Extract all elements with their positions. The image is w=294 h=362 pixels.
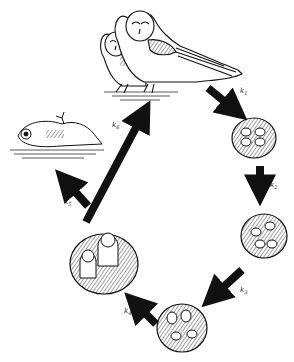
label-k1: k1 [240, 88, 247, 96]
arrow-k1 [208, 88, 230, 106]
dead-owl-illustration [10, 112, 104, 158]
label-k2: k2 [270, 182, 277, 190]
label-k4: k4 [124, 308, 131, 316]
label-k5: k5 [64, 199, 71, 207]
label-k3: k3 [240, 287, 247, 295]
nest-fledglings [70, 233, 138, 294]
nest-hatching [241, 214, 287, 258]
nest-eggs [232, 118, 276, 158]
arrow-k5 [70, 186, 88, 206]
life-cycle-diagram [0, 0, 294, 362]
adult-owls-illustration [101, 11, 242, 100]
arrow-k4 [140, 308, 156, 324]
label-k6: k6 [112, 122, 119, 130]
nest-nestlings [157, 304, 207, 352]
arrow-k3 [218, 270, 242, 292]
